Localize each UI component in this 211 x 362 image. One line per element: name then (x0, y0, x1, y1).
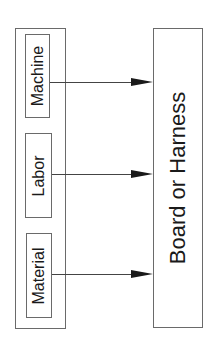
board-or-harness-label: Board or Harness (165, 92, 191, 264)
arrowhead-icon (131, 170, 153, 178)
material-label: Material (30, 247, 48, 304)
labor-box: Labor (25, 133, 52, 218)
arrow-line (52, 174, 132, 175)
material-box: Material (26, 233, 52, 318)
arrowhead-icon (131, 270, 153, 278)
arrow-line (50, 82, 132, 83)
arrowhead-icon (131, 78, 153, 86)
arrow-line (52, 274, 132, 275)
machine-label: Machine (29, 46, 47, 106)
machine-box: Machine (25, 34, 50, 118)
board-or-harness-box: Board or Harness (153, 28, 203, 328)
labor-label: Labor (30, 155, 48, 196)
